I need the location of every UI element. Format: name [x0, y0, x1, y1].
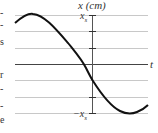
top-tick-label: xs [80, 10, 87, 26]
sinusoid-curve [15, 14, 148, 114]
bottom-tick-label: −xs [73, 108, 87, 124]
x-axis-label: t [150, 59, 153, 70]
